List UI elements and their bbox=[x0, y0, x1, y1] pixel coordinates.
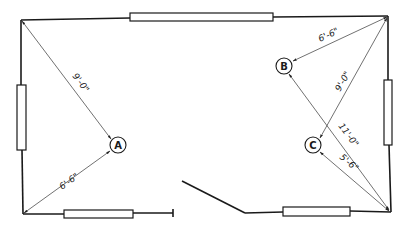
point-C-label: C bbox=[309, 140, 316, 151]
wall-right-lower bbox=[389, 145, 391, 212]
wall-top-right bbox=[273, 16, 388, 17]
point-A-label: A bbox=[114, 140, 122, 151]
label-topleft-A: 9'-0" bbox=[70, 71, 91, 94]
point-A: A bbox=[110, 137, 126, 153]
dimension-lines bbox=[22, 17, 389, 213]
window-bottom-left bbox=[64, 210, 133, 218]
window-bottom-right bbox=[283, 207, 350, 216]
dim-topleft-to-A bbox=[22, 21, 111, 139]
wall-top-left bbox=[21, 18, 130, 20]
label-topright-B: 6'-6" bbox=[317, 26, 341, 44]
dim-bottomright-to-B bbox=[289, 74, 389, 210]
window-right bbox=[384, 80, 392, 145]
dim-topright-to-B bbox=[293, 17, 387, 61]
label-topright-C: 11'-0" bbox=[336, 121, 360, 149]
wall-left-lower bbox=[22, 150, 23, 214]
point-B: B bbox=[276, 58, 292, 74]
wall-bottom-mid bbox=[245, 212, 283, 213]
label-bottomright-B: 9'-0" bbox=[333, 70, 352, 93]
wall-bottom-right bbox=[350, 211, 391, 212]
floor-plan: 9'-0" 6'-6" 6'-6" 9'-0" 11'-0" 5'-6" A B… bbox=[0, 0, 414, 232]
window-top bbox=[130, 13, 273, 21]
point-C: C bbox=[305, 137, 321, 153]
door bbox=[182, 181, 245, 213]
point-B-label: B bbox=[280, 61, 288, 72]
windows bbox=[17, 13, 392, 218]
window-left bbox=[17, 85, 26, 150]
walls bbox=[21, 16, 391, 217]
label-bottomleft-A: 6'-6" bbox=[57, 171, 80, 192]
